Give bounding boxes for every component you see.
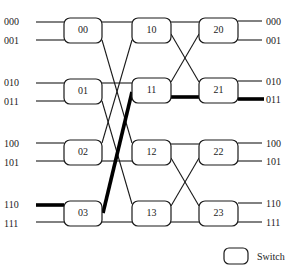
svg-text:00: 00	[78, 24, 88, 35]
switch-03: 03	[64, 201, 102, 226]
output-label-010: 010	[266, 76, 281, 87]
input-label-110: 110	[4, 199, 19, 210]
switch-01: 01	[64, 79, 102, 104]
legend: Switch	[224, 248, 285, 264]
switch-13: 13	[132, 201, 171, 226]
svg-text:22: 22	[214, 146, 224, 157]
svg-text:01: 01	[78, 85, 88, 96]
svg-text:12: 12	[147, 146, 157, 157]
input-label-100: 100	[4, 138, 19, 149]
output-label-111: 111	[266, 217, 280, 228]
switch-21: 21	[199, 78, 238, 103]
switch-02: 02	[64, 140, 102, 165]
stage1-stage2-links	[171, 22, 199, 222]
input-label-010: 010	[4, 77, 19, 88]
input-label-011: 011	[4, 96, 19, 107]
switch-22: 22	[199, 140, 238, 165]
input-label-101: 101	[4, 157, 19, 168]
switch-12: 12	[132, 140, 171, 165]
switch-00: 00	[64, 18, 102, 43]
switch-20: 20	[199, 18, 238, 43]
svg-text:11: 11	[147, 84, 157, 95]
network-diagram: 000 001 010 011 100 101 110 111	[0, 0, 298, 277]
input-label-111: 111	[4, 218, 18, 229]
svg-text:20: 20	[214, 24, 224, 35]
legend-switch-icon	[224, 248, 248, 264]
svg-text:03: 03	[78, 207, 88, 218]
output-wires	[238, 21, 264, 222]
svg-text:02: 02	[78, 146, 88, 157]
output-label-100: 100	[266, 138, 281, 149]
input-wires	[36, 22, 64, 222]
output-label-011: 011	[266, 94, 281, 105]
switch-11: 11	[132, 78, 171, 103]
switch-10: 10	[132, 18, 171, 43]
legend-label: Switch	[257, 251, 285, 262]
svg-text:23: 23	[214, 207, 224, 218]
output-label-001: 001	[266, 35, 281, 46]
highlighted-link-03-11	[103, 92, 132, 213]
stage0-stage1-links	[102, 22, 132, 222]
output-label-000: 000	[266, 16, 281, 27]
svg-text:21: 21	[214, 84, 224, 95]
svg-text:13: 13	[147, 207, 157, 218]
switch-23: 23	[199, 201, 238, 226]
output-label-110: 110	[266, 198, 281, 209]
input-label-001: 001	[4, 35, 19, 46]
output-label-101: 101	[266, 156, 281, 167]
svg-text:10: 10	[147, 24, 157, 35]
input-label-000: 000	[4, 16, 19, 27]
